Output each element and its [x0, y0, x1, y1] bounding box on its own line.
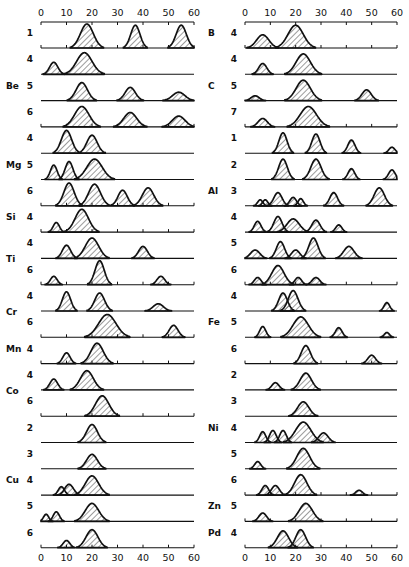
coordination-number-label: 4	[231, 54, 237, 64]
peak-shape	[78, 425, 106, 443]
coordination-number-label: 5	[231, 81, 237, 91]
spectrum-row: 3	[231, 186, 397, 206]
peak-shape	[70, 371, 103, 390]
top-tick-label: 50	[162, 7, 174, 18]
coordination-number-label: 4	[27, 133, 33, 143]
element-label: Cr	[6, 307, 18, 317]
peak-shape	[117, 87, 144, 100]
peak-shape	[81, 343, 113, 363]
peak-shape	[343, 169, 360, 180]
top-tick-label: 30	[111, 7, 123, 18]
peak-shape	[162, 116, 194, 127]
peak-shape	[43, 62, 64, 74]
top-tick-label: 40	[340, 7, 352, 18]
coordination-number-label: 6	[27, 265, 33, 275]
peak-shape	[79, 184, 110, 206]
spectrum-row: 4	[27, 291, 194, 311]
spectrum-row: 5	[231, 80, 397, 100]
spectrum-row: 5	[231, 448, 397, 468]
peak-shape	[64, 53, 104, 75]
element-label: Al	[208, 186, 218, 196]
coordination-number-label: 5	[231, 317, 237, 327]
top-tick-label: 20	[290, 7, 302, 18]
coordination-number-label: 6	[27, 186, 33, 196]
element-label: B	[208, 28, 215, 38]
peak-shape	[79, 135, 106, 153]
spectrum-row: 6	[27, 183, 194, 206]
peak-shape	[306, 278, 326, 285]
element-label: Co	[6, 386, 19, 396]
peak-shape	[78, 454, 106, 468]
peak-shape	[285, 80, 322, 100]
coordination-number-label: 4	[27, 54, 33, 64]
bottom-tick-label: 40	[137, 552, 149, 563]
peak-shape	[253, 513, 273, 521]
spectrum-row: 2	[231, 159, 397, 179]
spectrum-row: 4	[27, 53, 194, 75]
coordination-number-label: 5	[231, 238, 237, 248]
coordination-number-label: 6	[27, 107, 33, 117]
peak-shape	[366, 188, 392, 206]
spectrum-row: 2	[231, 370, 397, 390]
bottom-tick-label: 60	[188, 552, 200, 563]
coordination-number-label: 4	[27, 475, 33, 485]
coordination-number-label: 4	[27, 344, 33, 354]
peak-shape	[252, 64, 273, 75]
bottom-tick-label: 20	[290, 552, 302, 563]
peak-shape	[45, 276, 62, 284]
peak-shape	[56, 183, 83, 206]
peak-shape	[330, 328, 347, 338]
top-tick-label: 10	[60, 7, 72, 18]
peak-shape	[56, 292, 77, 311]
peak-shape	[59, 162, 79, 180]
peak-shape	[289, 503, 323, 521]
peak-shape	[383, 170, 397, 180]
peak-shape	[162, 325, 185, 337]
peak-shape	[294, 346, 318, 364]
spectrum-row: 3	[231, 396, 397, 416]
coordination-number-label: 3	[231, 186, 237, 196]
element-label: Pd	[208, 528, 221, 538]
peak-shape	[331, 225, 347, 232]
peak-shape	[250, 462, 266, 469]
peak-shape	[77, 530, 108, 548]
bottom-tick-label: 50	[366, 552, 378, 563]
bottom-tick-label: 20	[86, 552, 98, 563]
peak-shape	[168, 25, 194, 48]
peak-shape	[57, 353, 76, 364]
bottom-tick-label: 10	[264, 552, 276, 563]
peak-shape	[270, 242, 291, 259]
spectrum-row: 5	[27, 159, 194, 179]
peak-shape	[362, 355, 382, 363]
peak-shape	[75, 238, 109, 258]
top-tick-label: 0	[38, 7, 44, 18]
coordination-number-label: 2	[231, 160, 237, 170]
coordination-number-label: 4	[27, 291, 33, 301]
spectrum-row: 5	[231, 238, 397, 258]
coordination-number-label: 6	[27, 528, 33, 538]
peak-shape	[63, 107, 100, 127]
peak-shape	[276, 25, 316, 48]
spectrum-row: 6	[231, 344, 397, 364]
element-label: Fe	[208, 317, 220, 327]
coordination-number-label: 6	[27, 317, 33, 327]
coordination-number-label: 5	[231, 501, 237, 511]
peak-shape	[249, 221, 266, 232]
peak-shape	[291, 373, 320, 390]
spectrum-row: 4	[231, 291, 397, 311]
peak-shape	[303, 159, 329, 179]
peak-shape	[255, 327, 271, 338]
spectrum-row: 2	[27, 423, 194, 443]
peak-shape	[53, 130, 80, 153]
peak-shape	[251, 119, 275, 127]
peak-shape	[48, 223, 64, 233]
coordination-number-label: 2	[231, 370, 237, 380]
peak-shape	[305, 220, 326, 232]
top-tick-label: 20	[86, 7, 98, 18]
peak-shape	[85, 396, 119, 416]
spectrum-row: 5	[27, 81, 194, 101]
peak-shape	[342, 140, 360, 153]
bottom-tick-label: 60	[391, 552, 403, 563]
peak-shape	[336, 246, 362, 258]
coordination-number-label: 6	[231, 475, 237, 485]
